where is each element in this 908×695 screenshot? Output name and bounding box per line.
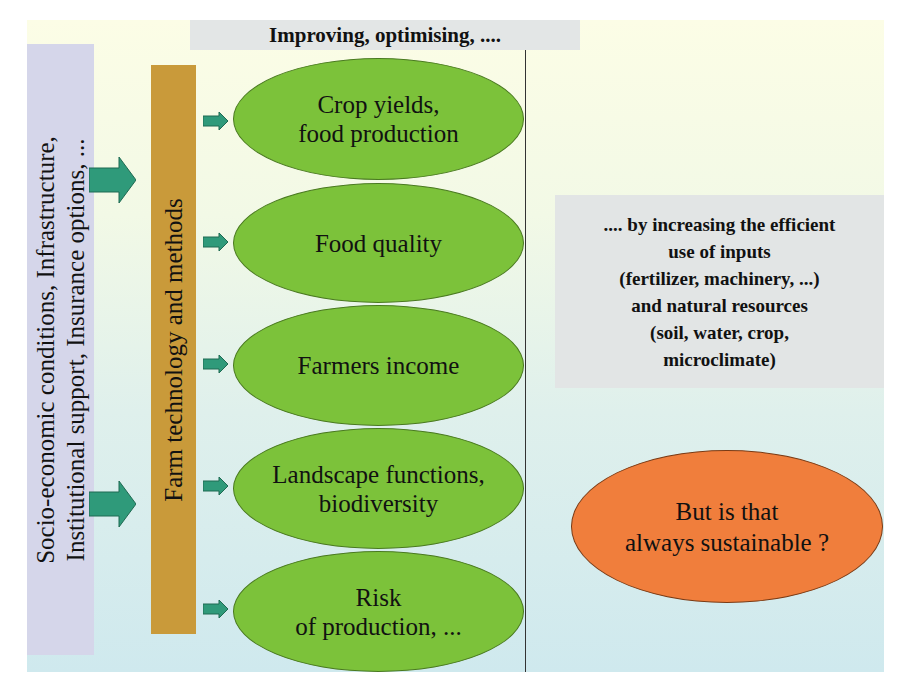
sustainability-question: But is that always sustainable ? (571, 450, 883, 603)
farm-technology-text: Farm technology and methods (159, 65, 189, 634)
title-text: Improving, optimising, .... (269, 23, 501, 48)
efficiency-info-box: .... by increasing the efficient use of … (555, 195, 884, 388)
arrow-right-icon (89, 157, 136, 203)
title-box: Improving, optimising, .... (190, 20, 580, 50)
outcome-food-quality: Food quality (233, 183, 524, 303)
arrow-right-icon (203, 233, 228, 251)
outcome-crop-yields: Crop yields, food production (233, 58, 524, 180)
context-conditions-box: Socio-economic conditions, Infrastructur… (27, 44, 94, 655)
arrow-right-icon (203, 112, 228, 130)
farm-technology-bar: Farm technology and methods (151, 65, 196, 634)
context-conditions-text: Socio-economic conditions, Infrastructur… (31, 44, 91, 655)
arrow-right-icon (89, 481, 136, 527)
arrow-right-icon (203, 355, 228, 373)
outcome-risk-of-production: Risk of production, ... (233, 551, 524, 672)
vertical-divider (525, 50, 526, 672)
arrow-right-icon (203, 600, 228, 618)
outcome-farmers-income: Farmers income (233, 305, 524, 426)
outcome-landscape-functions: Landscape functions, biodiversity (233, 428, 524, 549)
arrow-right-icon (203, 477, 228, 495)
